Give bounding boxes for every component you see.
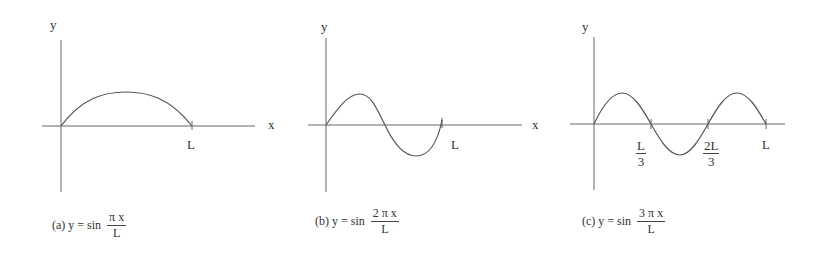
panel-c-tick-L3-label: L 3 <box>636 138 646 169</box>
panel-b-axes <box>308 38 522 192</box>
panel-b-tick-L-label: L <box>451 138 459 151</box>
panel-a-caption-denominator: L <box>113 226 120 241</box>
panel-a-axes <box>42 40 255 192</box>
panel-c-axes <box>570 37 785 190</box>
panel-c-tick-L-label: L <box>762 138 770 151</box>
panel-a-caption-numerator: π x <box>107 210 126 226</box>
panel-b-caption-prefix: (b) y = sin <box>315 214 365 229</box>
panel-b-x-label: x <box>532 118 539 131</box>
panel-a-caption-prefix: (a) y = sin <box>52 218 101 233</box>
panel-b-caption: (b) y = sin 2 π x L <box>315 206 399 237</box>
panel-c-y-label: y <box>582 20 589 33</box>
panel-c-caption-fraction: 3 π x L <box>637 206 665 237</box>
panel-c-caption: (c) y = sin 3 π x L <box>582 206 665 237</box>
panel-b-caption-numerator: 2 π x <box>371 206 399 222</box>
panel-a-caption-fraction: π x L <box>107 210 126 241</box>
panel-a-x-label: x <box>268 118 275 131</box>
panel-c-caption-numerator: 3 π x <box>637 206 665 222</box>
panel-c-tick-2L3-label: 2L 3 <box>703 138 719 169</box>
panel-c-caption-prefix: (c) y = sin <box>582 214 631 229</box>
panel-c-tick-L3-denominator: 3 <box>638 154 645 169</box>
panel-a-y-label: y <box>50 18 57 31</box>
panel-b-y-label: y <box>321 20 328 33</box>
panel-a-curve <box>61 92 192 126</box>
panel-c-tick-L3-numerator: L <box>636 138 646 154</box>
panel-b-caption-fraction: 2 π x L <box>371 206 399 237</box>
panel-c-tick-2L3-denominator: 3 <box>708 154 715 169</box>
panel-c-caption-denominator: L <box>647 222 654 237</box>
panel-b-caption-denominator: L <box>381 222 388 237</box>
panel-c-tick-2L3-numerator: 2L <box>703 138 719 154</box>
panel-a-tick-L-label: L <box>187 138 195 151</box>
panel-a-caption: (a) y = sin π x L <box>52 210 126 241</box>
